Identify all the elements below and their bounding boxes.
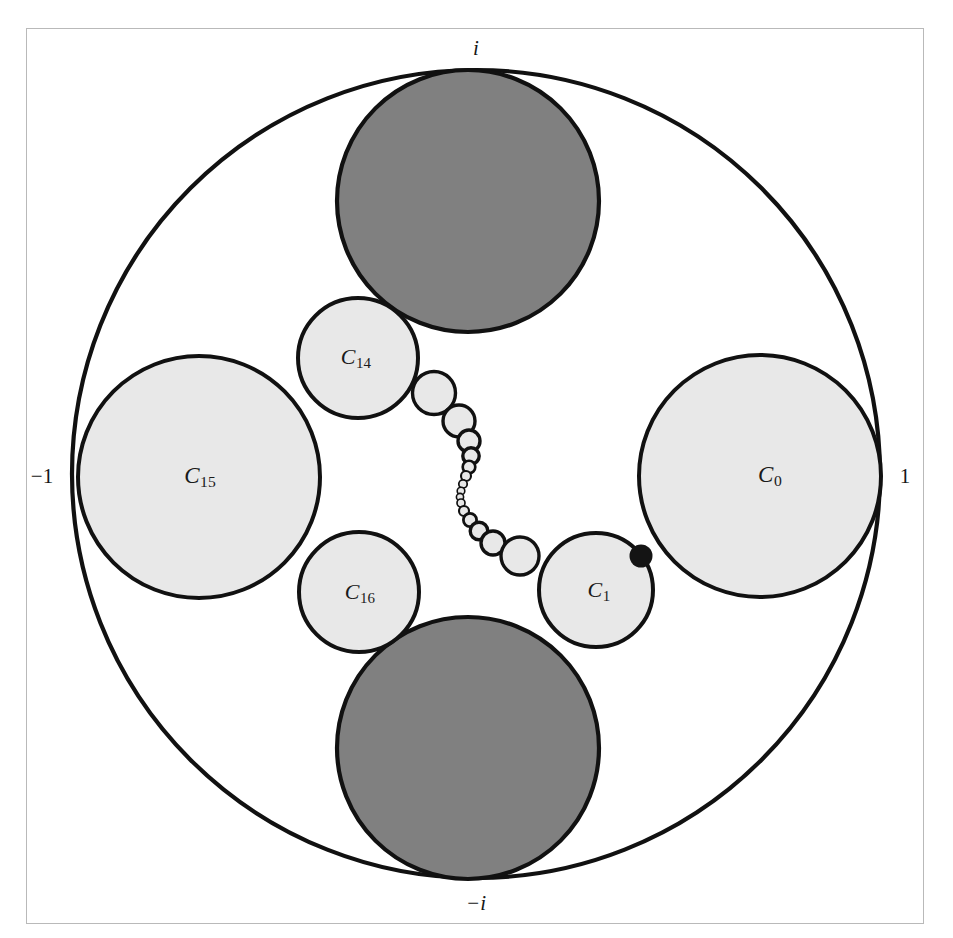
circle-label-C0: C0 (758, 463, 782, 489)
axis-label-top: i (473, 38, 479, 59)
circle-label-subscript: 14 (356, 356, 371, 372)
chain-circles-group (413, 372, 540, 576)
axis-label-bottom: −i (466, 893, 486, 914)
C0-C1-tangency (630, 545, 653, 568)
circle-label-C15: C15 (184, 464, 216, 490)
circle-label-base: C (341, 344, 356, 369)
tangency-dots-group (630, 545, 653, 568)
circle-label-C14: C14 (341, 346, 371, 371)
circle-label-base: C (758, 462, 773, 487)
circle-label-base: C (345, 579, 360, 604)
chain-circle-14 (501, 537, 539, 575)
figure-root: i−i−11 C0C1C14C15C16 (0, 0, 953, 938)
circle-label-base: C (588, 577, 603, 602)
circle-label-base: C (184, 463, 199, 488)
circle-label-subscript: 16 (360, 591, 375, 607)
axis-label-right: 1 (900, 466, 911, 487)
circle-label-C16: C16 (345, 581, 375, 606)
axis-label-left: −1 (31, 466, 53, 487)
circle-packing-diagram (0, 0, 953, 938)
circle-label-subscript: 0 (774, 472, 782, 489)
dark-circle-dark-top (337, 70, 599, 332)
dark-circle-dark-bottom (337, 617, 599, 879)
circle-label-C1: C1 (588, 579, 611, 604)
circle-label-subscript: 1 (603, 589, 611, 605)
circle-label-subscript: 15 (200, 473, 216, 490)
